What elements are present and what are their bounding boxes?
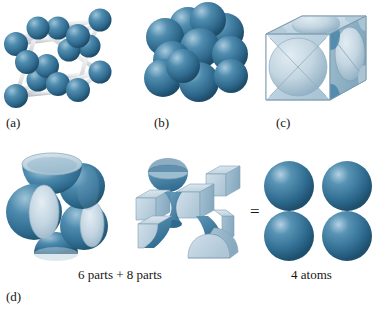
equals-sign: = xyxy=(250,203,260,220)
four-whole-atoms-group xyxy=(262,160,375,262)
panel-a-ball-and-stick xyxy=(0,0,130,110)
panel-label-d: (d) xyxy=(6,290,21,303)
panel-d-four-atoms xyxy=(262,160,375,262)
panel-c-clipped-cube xyxy=(258,4,375,110)
space-filling-fcc-cluster xyxy=(130,2,260,110)
eight-corner-octant-group xyxy=(130,158,248,264)
panel-label-a: (a) xyxy=(6,116,20,129)
panel-label-b: (b) xyxy=(154,116,169,129)
panel-d-corner-octants xyxy=(130,158,248,264)
six-half-spheres-group xyxy=(0,146,125,262)
panel-d-half-spheres xyxy=(0,146,125,262)
fcc-crystal-structure-figure: (a) (b) (c) (d) 6 parts + 8 parts 4 atom… xyxy=(0,0,375,309)
panel-label-c: (c) xyxy=(276,116,290,129)
panel-b-space-filling xyxy=(130,2,260,110)
parts-caption: 6 parts + 8 parts xyxy=(78,268,162,281)
cube-clipped-sphere-sections xyxy=(258,4,375,110)
ball-and-stick-fcc-unit-cell xyxy=(0,0,130,110)
atoms-caption: 4 atoms xyxy=(291,268,332,281)
